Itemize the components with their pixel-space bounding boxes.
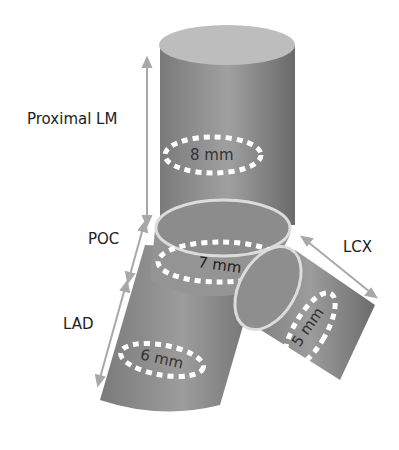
label-lcx: LCX: [343, 238, 372, 256]
diameter-lm: 8 mm: [190, 146, 234, 164]
label-poc: POC: [88, 230, 119, 248]
label-lad: LAD: [63, 315, 94, 333]
label-proximal-lm: Proximal LM: [27, 110, 117, 128]
proximal-lm-vessel: [159, 25, 295, 225]
bifurcation-diagram: [0, 0, 399, 450]
